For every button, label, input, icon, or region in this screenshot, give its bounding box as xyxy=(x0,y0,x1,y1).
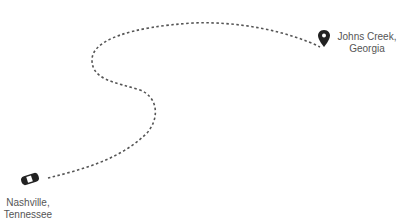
destination-city: Johns Creek, xyxy=(332,31,402,43)
destination-state: Georgia xyxy=(332,43,402,55)
map-pin-icon xyxy=(318,30,330,47)
destination-label: Johns Creek, Georgia xyxy=(332,31,402,55)
origin-label: Nashville, Tennessee xyxy=(0,197,56,221)
origin-state: Tennessee xyxy=(0,209,56,221)
origin-city: Nashville, xyxy=(0,197,56,209)
car-icon xyxy=(20,172,40,186)
route-path xyxy=(48,23,320,178)
